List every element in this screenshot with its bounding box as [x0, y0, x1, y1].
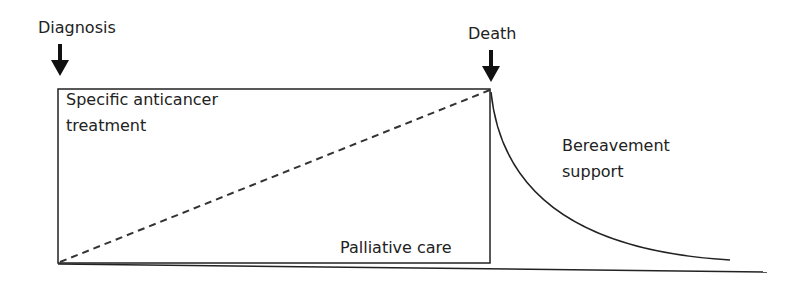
bereavement-label-line1: Bereavement: [562, 136, 670, 156]
baseline-axis: [58, 264, 767, 272]
diagnosis-arrow-icon: [51, 44, 69, 76]
treatment-label-line2: treatment: [66, 116, 146, 136]
diagnosis-label: Diagnosis: [38, 18, 116, 38]
treatment-label-line1: Specific anticancer: [66, 90, 218, 110]
bereavement-label-line2: support: [562, 162, 623, 182]
palliative-care-label: Palliative care: [340, 238, 452, 258]
death-label: Death: [468, 24, 516, 44]
death-arrow-icon: [482, 50, 500, 82]
